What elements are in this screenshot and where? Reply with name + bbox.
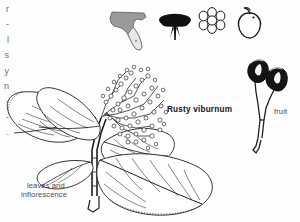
leaves-caption-line-2: inflorescence [21,191,67,199]
leaves-caption-line-1: leaves and [27,182,67,190]
leaves-caption: leaves and inflorescence [27,182,67,199]
drupe [248,60,268,83]
species-label: Rusty viburnum [167,106,232,115]
drupe [266,68,287,91]
fruit-caption: fruit [274,108,287,116]
botanical-illustration-plate: r - l s y n - - . [0,0,300,222]
